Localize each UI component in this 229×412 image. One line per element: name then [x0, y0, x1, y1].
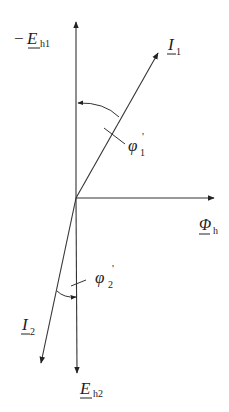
label-i2: I 2: [21, 315, 35, 337]
svg-text:E: E: [79, 379, 91, 398]
svg-text:': ': [142, 130, 144, 142]
label-eh2: E h2: [79, 379, 103, 399]
angle-arc-phi2: [57, 291, 76, 297]
svg-text:−: −: [14, 29, 24, 48]
svg-text:h2: h2: [93, 388, 103, 399]
svg-text:2: 2: [108, 279, 113, 290]
svg-text:φ: φ: [128, 136, 137, 155]
svg-text:': ': [112, 262, 114, 274]
svg-text:h: h: [213, 225, 218, 236]
svg-text:I: I: [167, 35, 175, 54]
phasor-diagram: − E h1 I 1 φ 1 ' Φ h φ 2 ' I 2 E h2: [0, 0, 229, 412]
svg-text:1: 1: [176, 46, 181, 57]
svg-text:h1: h1: [40, 38, 50, 49]
svg-text:2: 2: [30, 326, 35, 337]
phasor-eh2: [76, 198, 77, 373]
svg-text:φ: φ: [95, 268, 104, 287]
phasor-i1: [76, 53, 158, 198]
svg-text:Φ: Φ: [199, 216, 211, 233]
svg-text:E: E: [26, 29, 38, 48]
label-neg-eh1: − E h1: [14, 29, 50, 49]
label-i1: I 1: [167, 35, 181, 57]
svg-text:I: I: [21, 315, 29, 334]
label-phi-h: Φ h: [199, 216, 218, 236]
label-phi1: φ 1 ': [128, 130, 145, 158]
svg-text:1: 1: [140, 147, 145, 158]
angle-arc-phi1: [78, 103, 119, 117]
phasor-i2: [41, 198, 76, 363]
label-phi2: φ 2 ': [95, 262, 114, 290]
angle-leader-phi2: [71, 280, 86, 286]
